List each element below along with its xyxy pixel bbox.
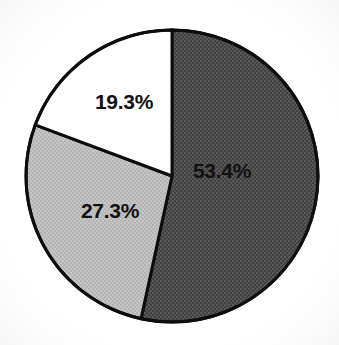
pie-slice-label-1: 53.4% <box>193 159 252 182</box>
pie-slice-label-3: 19.3% <box>95 90 154 113</box>
pie-chart-figure: 53.4% 27.3% 19.3% <box>0 0 339 345</box>
pie-slice-label-2: 27.3% <box>81 199 140 222</box>
pie-chart-svg: 53.4% 27.3% 19.3% <box>0 0 339 345</box>
